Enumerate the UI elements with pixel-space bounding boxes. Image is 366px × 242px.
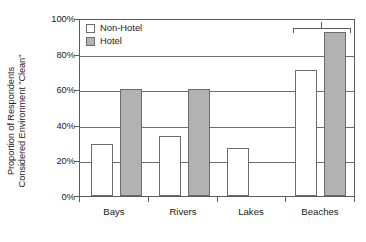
bar-bays-non-hotel[interactable] <box>91 144 113 196</box>
legend-label-hotel: Hotel <box>100 36 122 46</box>
y-tick-label-40: 40% <box>35 121 75 131</box>
legend-item-hotel[interactable]: Hotel <box>86 36 142 46</box>
x-axis-category-labels: Bays Rivers Lakes Beaches <box>79 206 355 222</box>
x-label-bays: Bays <box>103 206 124 218</box>
y-tick-label-20: 20% <box>35 156 75 166</box>
y-tick-label-100: 100% <box>35 14 75 24</box>
y-axis-tick-labels: 100% 80% 60% 40% 20% 0% <box>33 0 75 242</box>
x-tick-mark-3 <box>285 197 286 202</box>
x-label-beaches: Beaches <box>301 206 338 218</box>
bar-beaches-non-hotel[interactable] <box>295 70 317 196</box>
y-tick-label-60: 60% <box>35 85 75 95</box>
legend-swatch-icon-hotel <box>86 37 95 46</box>
bar-series-group <box>80 20 354 196</box>
bar-chart-figure: Proportion of Respondents Considered Env… <box>0 0 366 242</box>
y-axis-title-line-2: Considered Environment "Clean" <box>17 55 29 188</box>
x-axis-ticks <box>79 197 355 203</box>
y-tick-label-80: 80% <box>35 50 75 60</box>
bar-rivers-non-hotel[interactable] <box>159 136 181 197</box>
bar-beaches-hotel[interactable] <box>324 32 346 196</box>
bar-bays-hotel[interactable] <box>120 89 142 196</box>
x-label-lakes: Lakes <box>238 206 264 218</box>
legend: Non-Hotel Hotel <box>86 23 142 46</box>
y-axis-title: Proportion of Respondents Considered Env… <box>0 0 34 242</box>
y-axis-title-line-1: Proportion of Respondents <box>6 67 18 175</box>
legend-swatch-icon-non-hotel <box>86 24 95 33</box>
x-tick-mark-0 <box>79 197 80 202</box>
x-tick-mark-1 <box>148 197 149 202</box>
legend-item-non-hotel[interactable]: Non-Hotel <box>86 23 142 33</box>
bar-lakes-non-hotel[interactable] <box>227 148 249 196</box>
plot-area: Non-Hotel Hotel <box>79 19 355 197</box>
legend-label-non-hotel: Non-Hotel <box>100 23 142 33</box>
y-tick-label-0: 0% <box>35 192 75 202</box>
bar-rivers-hotel[interactable] <box>188 89 210 196</box>
x-label-rivers: Rivers <box>169 206 196 218</box>
x-tick-mark-2 <box>217 197 218 202</box>
x-tick-mark-4 <box>354 197 355 202</box>
